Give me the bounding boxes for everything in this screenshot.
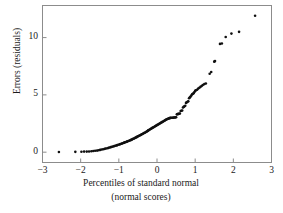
x-tick-label: −3 xyxy=(28,165,58,175)
x-tick-label: 3 xyxy=(257,165,283,175)
data-point xyxy=(80,150,83,153)
y-tick-label: 5 xyxy=(14,88,38,98)
x-axis-label-line1: Percentiles of standard normal xyxy=(0,177,282,191)
data-point xyxy=(184,104,187,107)
data-point xyxy=(187,100,190,103)
data-point xyxy=(181,109,184,112)
plot-border xyxy=(43,6,272,163)
y-tick-label: 10 xyxy=(14,31,38,41)
data-point xyxy=(83,150,86,153)
y-tick-label: 0 xyxy=(14,146,38,156)
plot-frame xyxy=(43,6,272,163)
x-tick-label: −2 xyxy=(66,165,96,175)
data-point xyxy=(175,116,178,119)
data-point xyxy=(254,15,257,18)
data-point xyxy=(221,42,224,45)
data-point xyxy=(74,151,77,154)
data-point xyxy=(210,71,213,74)
data-point xyxy=(238,31,241,34)
x-tick-label: −1 xyxy=(104,165,134,175)
data-point xyxy=(214,60,217,63)
x-tick-label: 2 xyxy=(218,165,248,175)
x-axis-label-line2: (normal scores) xyxy=(0,191,282,205)
data-point xyxy=(224,36,227,39)
qq-plot-figure: Errors (residuals) Percentiles of standa… xyxy=(0,0,282,213)
x-tick-label: 1 xyxy=(180,165,210,175)
data-point xyxy=(85,150,88,153)
x-axis-label: Percentiles of standard normal (normal s… xyxy=(0,177,282,204)
data-point xyxy=(230,32,233,35)
data-point xyxy=(88,150,91,153)
y-axis-label: Errors (residuals) xyxy=(12,6,22,116)
data-point xyxy=(205,82,208,85)
data-point xyxy=(179,112,182,115)
data-point xyxy=(58,151,61,154)
x-tick-label: 0 xyxy=(142,165,172,175)
